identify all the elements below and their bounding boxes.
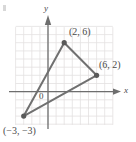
point-label-neg3-neg3: (−3, −3): [3, 126, 36, 136]
point-label-6-2: (6, 2): [99, 60, 121, 70]
triangle-shape: [24, 43, 97, 116]
vertex-dot-2-6: [62, 40, 67, 45]
vertex-dot-neg3-neg3: [21, 114, 26, 119]
coordinate-plane-figure: (2, 6) (6, 2) (−3, −3) y x 0: [0, 0, 136, 142]
vertex-dot-6-2: [94, 73, 99, 78]
x-axis-label: x: [124, 86, 128, 95]
origin-label: 0: [39, 92, 44, 101]
y-axis-label: y: [44, 4, 48, 13]
point-label-2-6: (2, 6): [69, 27, 91, 37]
graph-canvas: [0, 0, 136, 142]
